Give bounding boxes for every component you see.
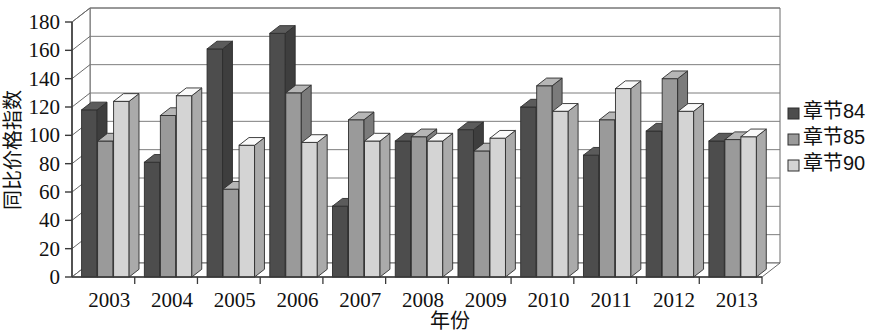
bar-2005-章节90 — [239, 138, 264, 277]
bar-chart-svg: 020406080100120140160180 200320042005200… — [0, 0, 877, 336]
y-tick-label: 120 — [29, 95, 61, 119]
legend-label: 章节85 — [803, 126, 865, 148]
y-tick-label: 20 — [39, 237, 60, 261]
chart-container: 020406080100120140160180 200320042005200… — [0, 0, 877, 336]
bar-2012-章节90 — [678, 104, 703, 277]
x-axis-title: 年份 — [430, 310, 470, 332]
y-tick-label: 140 — [29, 67, 61, 91]
bar-2011-章节90 — [615, 81, 640, 277]
x-tick-label: 2012 — [653, 288, 695, 312]
legend-item-章节90: 章节90 — [788, 152, 865, 174]
y-tick-label: 180 — [29, 10, 61, 34]
y-tick-label: 40 — [39, 208, 60, 232]
bar-2006-章节90 — [302, 135, 327, 277]
x-tick-label: 2013 — [716, 288, 758, 312]
legend: 章节84章节85章节90 — [788, 100, 865, 174]
legend-item-章节85: 章节85 — [788, 126, 865, 148]
y-tick-label: 80 — [39, 152, 60, 176]
legend-swatch — [788, 134, 799, 145]
x-tick-label: 2009 — [465, 288, 507, 312]
y-tick-label: 160 — [29, 38, 61, 62]
y-tick-label: 100 — [29, 123, 61, 147]
y-axis-title: 同比价格指数 — [2, 90, 24, 210]
x-tick-label: 2010 — [527, 288, 569, 312]
x-tick-labels: 2003200420052006200720082009201020112012… — [88, 288, 757, 312]
bar-2007-章节90 — [365, 133, 390, 277]
legend-label: 章节84 — [803, 100, 865, 122]
y-tick-label: 0 — [50, 265, 61, 289]
legend-swatch — [788, 108, 799, 119]
x-tick-label: 2006 — [277, 288, 319, 312]
bar-2003-章节90 — [114, 94, 139, 277]
legend-label: 章节90 — [803, 152, 865, 174]
bar-2013-章节90 — [741, 129, 766, 277]
legend-item-章节84: 章节84 — [788, 100, 865, 122]
x-tick-label: 2008 — [402, 288, 444, 312]
bar-2010-章节90 — [553, 104, 578, 277]
x-tick-label: 2011 — [591, 288, 632, 312]
x-axis — [72, 277, 762, 284]
x-tick-label: 2007 — [339, 288, 381, 312]
legend-swatch — [788, 160, 799, 171]
x-tick-label: 2003 — [88, 288, 130, 312]
y-tick-labels: 020406080100120140160180 — [29, 10, 61, 289]
bar-2008-章节90 — [427, 133, 452, 277]
y-tick-label: 60 — [39, 180, 60, 204]
bar-2004-章节90 — [176, 88, 201, 277]
bar-2009-章节90 — [490, 130, 515, 277]
x-tick-label: 2005 — [214, 288, 256, 312]
y-axis — [65, 22, 72, 277]
x-tick-label: 2004 — [151, 288, 194, 312]
